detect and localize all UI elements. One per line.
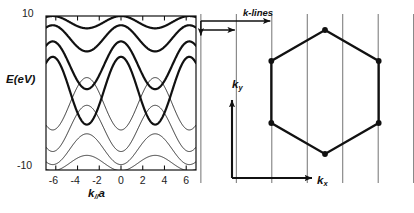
k-lines-annotation: k-lines [243,8,273,18]
ky-axis-label: ky [232,79,243,91]
hexagon-vertex-dot [268,58,274,64]
figure-root: E(eV) 10 -10 k//a -6-4-20246 k-lines ky … [0,0,414,213]
ky-axis-label-sub: y [238,83,242,92]
k-lines-annotation-group [201,21,270,36]
hexagon-vertex-dot [376,58,382,64]
hexagon-vertex-dot [322,151,328,157]
hexagon-vertex-dot [376,120,382,126]
hexagon-vertex-dot [268,120,274,126]
kx-axis-label: kx [317,175,328,187]
kx-axis-label-sub: x [323,179,327,188]
brillouin-zone-hexagon [271,30,378,154]
hexagon-vertex-dot [322,27,328,33]
brillouin-zone-diagram [0,0,414,213]
